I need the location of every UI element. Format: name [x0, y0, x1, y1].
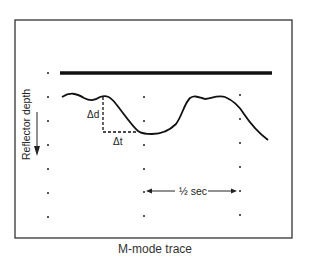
diagram-caption: M-mode trace	[0, 242, 310, 256]
arrow-left-icon	[146, 189, 152, 194]
delta-depth-label: Δd	[87, 109, 99, 120]
arrow-right-icon	[231, 189, 237, 194]
time-scale-label: ½ sec	[179, 185, 207, 197]
y-axis-label: Reflector depth	[20, 89, 32, 160]
diagram-frame	[15, 20, 292, 238]
delta-time-label: Δt	[113, 136, 123, 147]
diagram-canvas: Δd Δt Reflector depth ½ sec	[0, 0, 310, 263]
depth-arrow-icon	[34, 146, 40, 156]
